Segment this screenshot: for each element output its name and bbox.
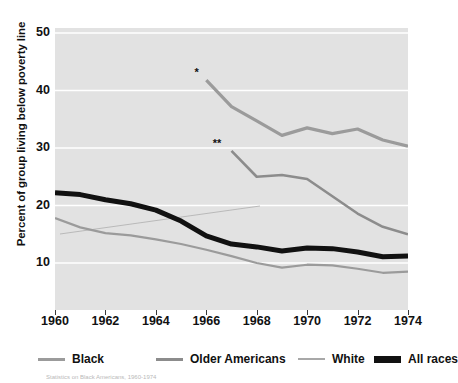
y-tick-label: 40 (10, 83, 50, 97)
legend-entry-all-races[interactable]: All races (374, 352, 458, 366)
legend-entry-black[interactable]: Black (38, 352, 104, 366)
legend-label: Black (72, 352, 104, 366)
x-tick-label: 1960 (30, 314, 80, 328)
plot-svg: *** (55, 28, 408, 310)
series-line-all-races (55, 193, 408, 257)
legend-swatch-icon (38, 358, 65, 361)
legend-swatch-icon (374, 356, 401, 363)
x-tick-label: 1964 (131, 314, 181, 328)
footnote-text: Statistics on Black Americans, 1960-1974 (46, 374, 426, 383)
x-tick-label: 1966 (181, 314, 231, 328)
x-axis-tick-labels: 19601962196419661968197019721974 (55, 314, 408, 334)
legend-swatch-icon (156, 358, 183, 361)
x-tick-label: 1974 (383, 314, 433, 328)
black-series-start-marker: * (194, 66, 199, 78)
older-americans-series-start-marker: ** (213, 137, 222, 149)
legend-label: Older Americans (190, 352, 286, 366)
y-tick-label: 10 (10, 255, 50, 269)
series-line-older-americans (232, 151, 409, 234)
y-tick-label: 30 (10, 140, 50, 154)
x-tick-label: 1972 (333, 314, 383, 328)
legend-entry-older-americans[interactable]: Older Americans (156, 352, 286, 366)
plot-area: *** (55, 28, 408, 310)
legend-entry-white[interactable]: White (298, 352, 365, 366)
y-tick-label: 20 (10, 198, 50, 212)
y-tick-label: 50 (10, 25, 50, 39)
legend-swatch-icon (298, 358, 325, 360)
legend-label: White (332, 352, 365, 366)
chart-legend: BlackOlder AmericansWhiteAll races (30, 352, 420, 370)
legend-label: All races (408, 352, 458, 366)
x-tick-label: 1970 (282, 314, 332, 328)
x-tick-label: 1962 (80, 314, 130, 328)
x-tick-label: 1968 (232, 314, 282, 328)
y-axis-tick-labels: 1020304050 (8, 28, 50, 310)
